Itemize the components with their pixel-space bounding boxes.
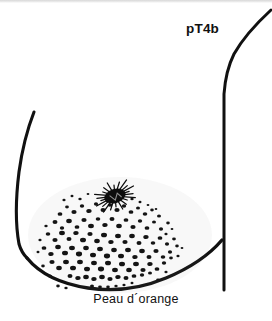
skin-pit bbox=[46, 232, 51, 236]
skin-pit bbox=[175, 245, 179, 248]
skin-pit bbox=[116, 224, 122, 228]
skin-pit bbox=[49, 260, 54, 264]
skin-pit bbox=[139, 201, 142, 203]
skin-pit bbox=[139, 249, 145, 253]
skin-pit bbox=[90, 253, 96, 258]
skin-pit bbox=[147, 204, 150, 206]
skin-pit bbox=[165, 242, 169, 245]
skin-pit bbox=[107, 277, 112, 281]
skin-pit bbox=[130, 198, 133, 201]
skin-pit bbox=[101, 233, 107, 238]
skin-pit bbox=[83, 275, 89, 279]
skin-pit bbox=[164, 271, 167, 273]
skin-pit bbox=[122, 284, 125, 286]
skin-pit bbox=[164, 233, 167, 235]
skin-pit bbox=[66, 219, 72, 223]
skin-pit bbox=[172, 238, 176, 241]
skin-pit bbox=[169, 257, 173, 260]
skin-pit bbox=[63, 260, 69, 265]
skin-pit bbox=[108, 240, 113, 244]
skin-pit bbox=[124, 276, 129, 280]
skin-pit bbox=[136, 206, 140, 209]
skin-pit bbox=[158, 236, 163, 240]
skin-pit bbox=[110, 217, 115, 221]
skin-pit bbox=[75, 276, 80, 280]
skin-pit bbox=[161, 255, 166, 259]
skin-pit bbox=[159, 227, 163, 230]
skin-pit bbox=[62, 251, 68, 256]
skin-pit bbox=[96, 217, 101, 221]
skin-pit bbox=[37, 251, 40, 253]
skin-pit bbox=[53, 220, 58, 224]
skin-pit bbox=[145, 226, 150, 230]
skin-pit bbox=[69, 246, 75, 251]
skin-pit bbox=[84, 267, 90, 272]
skin-pit bbox=[151, 241, 156, 245]
skin-pit bbox=[157, 214, 161, 217]
skin-pit bbox=[162, 261, 166, 264]
skin-pit bbox=[68, 274, 73, 278]
skin-pit bbox=[73, 231, 78, 235]
skin-pit bbox=[42, 246, 47, 250]
skin-pit bbox=[119, 262, 125, 267]
skin-pit bbox=[112, 268, 118, 273]
skin-pit bbox=[90, 284, 94, 287]
skin-pit bbox=[168, 250, 172, 253]
skin-pit bbox=[102, 223, 107, 227]
skin-pit bbox=[155, 267, 160, 271]
skin-pit bbox=[70, 266, 76, 271]
skin-pit bbox=[114, 285, 117, 288]
skin-pit bbox=[140, 268, 145, 272]
skin-pit bbox=[48, 274, 52, 277]
skin-pit bbox=[143, 235, 148, 239]
skin-pit bbox=[176, 255, 179, 257]
skin-pit bbox=[41, 265, 45, 268]
skin-pit bbox=[80, 238, 86, 243]
skin-pit bbox=[115, 234, 121, 239]
breast-illustration bbox=[0, 0, 272, 321]
skin-pit bbox=[98, 286, 102, 289]
skin-pit bbox=[130, 225, 135, 229]
skin-pit bbox=[125, 248, 131, 253]
skin-pit bbox=[71, 210, 76, 214]
skin-pit bbox=[118, 254, 124, 259]
skin-pit bbox=[143, 212, 148, 216]
skin-pit bbox=[71, 195, 74, 197]
skin-pit bbox=[115, 275, 120, 279]
stage-label: pT4b bbox=[186, 22, 219, 36]
skin-pit bbox=[140, 273, 144, 276]
figure-root: pT4b Peau d´orange bbox=[0, 0, 272, 321]
skin-pit bbox=[97, 247, 103, 252]
skin-pit bbox=[147, 262, 152, 266]
skin-pit bbox=[55, 245, 61, 249]
skin-pit bbox=[91, 277, 96, 281]
skin-pit bbox=[76, 252, 82, 257]
skin-pit bbox=[87, 193, 90, 195]
skin-pit bbox=[166, 222, 170, 225]
skin-pit bbox=[78, 198, 81, 201]
skin-pit bbox=[124, 218, 129, 222]
caption-label: Peau d´orange bbox=[0, 293, 272, 306]
skin-pit bbox=[129, 210, 134, 214]
skin-pit bbox=[104, 254, 110, 259]
skin-pit bbox=[132, 255, 137, 259]
skin-pit bbox=[153, 249, 158, 253]
skin-pit bbox=[137, 241, 142, 245]
skin-pit bbox=[38, 239, 41, 241]
skin-pit bbox=[56, 266, 62, 270]
skin-pit bbox=[114, 208, 119, 212]
skin-pit bbox=[99, 275, 105, 279]
skin-pit bbox=[81, 218, 86, 222]
skin-pit bbox=[52, 238, 57, 242]
skin-pit bbox=[156, 279, 160, 282]
skin-pit bbox=[126, 268, 132, 272]
skin-pit bbox=[65, 206, 69, 209]
skin-pit bbox=[59, 231, 65, 236]
skin-pit bbox=[88, 224, 94, 229]
skin-pit bbox=[132, 274, 137, 278]
skin-pit bbox=[111, 248, 117, 252]
skin-pit bbox=[122, 204, 126, 207]
skin-pit bbox=[106, 286, 110, 289]
skin-pit bbox=[98, 267, 104, 272]
skin-pit bbox=[94, 239, 100, 243]
